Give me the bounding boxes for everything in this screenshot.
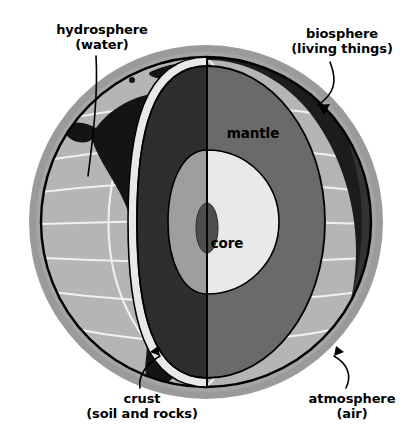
label-hydrosphere-name: hydrosphere <box>56 22 148 37</box>
earth-diagram-svg <box>0 0 412 446</box>
earth-cross-section-diagram: hydrosphere (water) biosphere (living th… <box>0 0 412 446</box>
label-mantle: mantle <box>216 126 290 141</box>
label-atmosphere-name: atmosphere <box>309 391 396 406</box>
label-atmosphere: atmosphere (air) <box>292 391 412 421</box>
label-biosphere: biosphere (living things) <box>276 26 408 56</box>
label-crust-detail: (soil and rocks) <box>72 406 212 421</box>
label-atmosphere-detail: (air) <box>292 406 412 421</box>
label-crust-name: crust <box>124 391 161 406</box>
atmosphere-leader <box>334 356 349 388</box>
label-core: core <box>200 236 254 251</box>
atmosphere-arrowhead <box>334 346 344 356</box>
label-biosphere-name: biosphere <box>306 26 378 41</box>
label-biosphere-detail: (living things) <box>276 41 408 56</box>
label-crust: crust (soil and rocks) <box>72 391 212 421</box>
label-hydrosphere-detail: (water) <box>38 37 166 52</box>
label-hydrosphere: hydrosphere (water) <box>38 22 166 52</box>
